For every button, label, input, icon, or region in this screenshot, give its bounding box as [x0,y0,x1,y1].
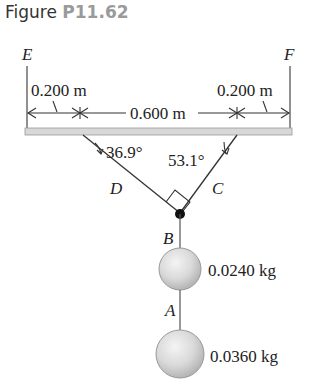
angle-left-label: 36.9° [106,143,143,162]
label-E: E [21,45,33,64]
mass-lower-label: 0.0360 kg [210,347,279,366]
mass-upper-label: 0.0240 kg [208,261,277,280]
label-F: F [283,45,295,64]
sphere-lower [156,330,204,378]
horizontal-bar [25,128,292,135]
dim-middle-label: 0.600 m [130,104,186,123]
dim-left-label: 0.200 m [31,81,87,100]
label-D: D [109,179,123,198]
label-A: A [164,301,176,320]
sphere-upper [159,248,201,290]
angle-right-label: 53.1° [168,151,205,170]
label-B: B [163,229,174,248]
right-angle-marker [166,190,190,211]
label-C: C [212,179,224,198]
physics-diagram: E F 0.200 m 0.200 m 0.600 m 36.9° 53.1° … [0,0,310,390]
dim-right-label: 0.200 m [217,81,273,100]
